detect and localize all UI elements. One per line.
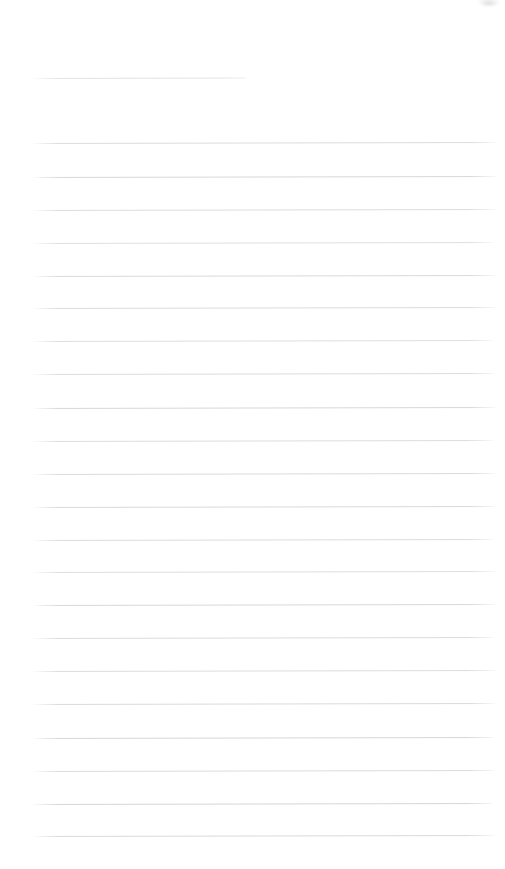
rule-line-7 [33, 340, 494, 342]
rule-line-21 [33, 803, 493, 805]
rule-line-15 [33, 604, 495, 606]
rule-line-10 [33, 440, 494, 442]
rule-line-1 [33, 142, 496, 144]
rule-line-11 [33, 473, 495, 475]
rule-line-4 [33, 242, 494, 244]
rule-line-22 [33, 835, 494, 837]
rule-line-6 [33, 307, 495, 309]
rule-line-16 [33, 637, 494, 639]
rule-line-5 [33, 275, 495, 277]
rule-line-18 [33, 703, 495, 705]
scanned-page [0, 0, 505, 869]
rule-line-9 [33, 407, 495, 409]
rule-line-2 [33, 176, 496, 178]
rule-line-20 [33, 770, 495, 772]
rule-line-19 [33, 737, 494, 739]
rule-line-13 [33, 539, 494, 541]
header-rule-line [33, 78, 246, 79]
scan-smudge-artifact [478, 0, 500, 6]
rule-line-17 [33, 670, 495, 672]
rule-line-14 [33, 571, 495, 573]
rule-line-8 [33, 373, 495, 375]
rule-line-12 [33, 506, 495, 508]
rule-line-3 [33, 209, 495, 211]
paper-texture [0, 0, 505, 869]
